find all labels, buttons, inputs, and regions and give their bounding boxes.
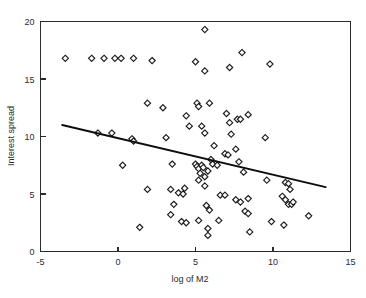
- data-point-marker: [240, 169, 246, 175]
- data-point-marker: [264, 177, 270, 183]
- data-point-marker: [202, 68, 208, 74]
- x-tick-label: 0: [115, 257, 120, 267]
- y-axis-title: Interest spread: [6, 106, 16, 166]
- data-point-marker: [199, 123, 205, 129]
- data-point-marker: [118, 55, 124, 61]
- data-point-marker: [202, 183, 208, 189]
- data-point-marker: [196, 217, 202, 223]
- x-tick-label: -5: [36, 257, 44, 267]
- plot-canvas: -5051015 05101520 log of M2 Interest spr…: [0, 0, 366, 298]
- data-point-marker: [171, 201, 177, 207]
- x-axis-title: log of M2: [171, 274, 208, 284]
- regression-line: [62, 125, 326, 187]
- data-point-marker: [130, 55, 136, 61]
- data-point-marker: [202, 26, 208, 32]
- axis-ticks: [41, 22, 351, 252]
- data-point-marker: [144, 186, 150, 192]
- scatter-plot-figure: -5051015 05101520 log of M2 Interest spr…: [0, 0, 366, 298]
- y-tick-label: 0: [29, 247, 34, 257]
- data-point-marker: [149, 58, 155, 64]
- data-point-marker: [216, 217, 222, 223]
- data-point-marker: [205, 232, 211, 238]
- data-point-marker: [267, 61, 273, 67]
- data-point-marker: [62, 55, 68, 61]
- plot-frame: [41, 22, 351, 252]
- data-point-marker: [262, 135, 268, 141]
- data-point-marker: [168, 212, 174, 218]
- data-point-marker: [222, 192, 228, 198]
- trend-line-segment: [62, 125, 326, 187]
- data-point-marker: [245, 196, 251, 202]
- data-point-marker: [227, 64, 233, 70]
- data-point-marker: [160, 105, 166, 111]
- data-point-marker: [169, 161, 175, 167]
- data-point-marker: [168, 186, 174, 192]
- data-point-marker: [196, 177, 202, 183]
- y-tick-label: 5: [29, 190, 34, 200]
- data-point-marker: [101, 55, 107, 61]
- data-point-marker: [163, 135, 169, 141]
- x-axis-tick-labels: -5051015: [36, 257, 355, 267]
- data-point-marker: [281, 222, 287, 228]
- data-point-marker: [268, 219, 274, 225]
- scatter-points: [62, 26, 312, 238]
- y-axis-tick-labels: 05101520: [24, 17, 34, 257]
- data-point-marker: [236, 159, 242, 165]
- data-point-marker: [247, 229, 253, 235]
- data-point-marker: [120, 162, 126, 168]
- x-tick-label: 15: [345, 257, 355, 267]
- data-point-marker: [89, 55, 95, 61]
- data-point-marker: [287, 186, 293, 192]
- data-point-marker: [192, 59, 198, 65]
- data-point-marker: [137, 224, 143, 230]
- data-point-marker: [245, 112, 251, 118]
- data-point-marker: [239, 49, 245, 55]
- y-tick-label: 20: [24, 17, 34, 27]
- data-point-marker: [112, 55, 118, 61]
- y-tick-label: 10: [24, 132, 34, 142]
- x-tick-label: 10: [268, 257, 278, 267]
- data-point-marker: [202, 130, 208, 136]
- data-point-marker: [306, 213, 312, 219]
- data-point-marker: [205, 225, 211, 231]
- data-point-marker: [182, 185, 188, 191]
- data-point-marker: [233, 146, 239, 152]
- data-point-marker: [144, 100, 150, 106]
- data-point-marker: [211, 143, 217, 149]
- data-point-marker: [183, 113, 189, 119]
- data-point-marker: [206, 100, 212, 106]
- x-tick-label: 5: [193, 257, 198, 267]
- data-point-marker: [227, 120, 233, 126]
- y-tick-label: 15: [24, 75, 34, 85]
- data-point-marker: [186, 123, 192, 129]
- data-point-marker: [223, 110, 229, 116]
- data-point-marker: [228, 131, 234, 137]
